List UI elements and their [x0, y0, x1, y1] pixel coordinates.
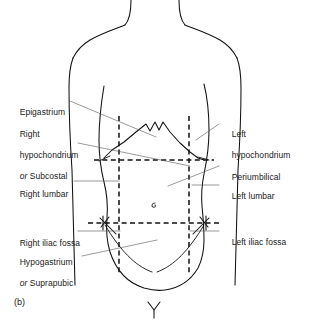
- arm-outline: [69, 58, 241, 285]
- label-left-hypochondrium-line2: hypochondrium: [232, 150, 291, 160]
- label-left-iliac-fossa: Left iliac fossa: [222, 226, 286, 258]
- shoulder-outline: [73, 25, 237, 58]
- label-left-iliac-fossa-line1: Left iliac fossa: [232, 237, 287, 247]
- umbilicus-mark: [152, 203, 155, 207]
- label-right-hypochondrium-line2: hypochondrium: [20, 150, 79, 160]
- abdominal-regions-figure: Epigastrium Right hypochondrium or Subco…: [0, 0, 309, 327]
- leader-lines-right: [168, 124, 219, 231]
- label-hypogastrium-alt-text: Suprapubic: [30, 278, 74, 288]
- label-right-lumbar-line1: Right lumbar: [20, 189, 69, 199]
- label-right-lumbar: Right lumbar: [10, 178, 68, 210]
- label-hypogastrium-line1: Hypogastrium: [20, 257, 73, 267]
- label-epigastrium-line1: Epigastrium: [20, 107, 65, 117]
- label-left-lumbar-line1: Left lumbar: [232, 191, 275, 201]
- neck-outline: [125, 0, 185, 25]
- costal-margin: [99, 122, 209, 161]
- figure-caption: (b): [14, 297, 25, 307]
- label-right-hypochondrium-line1: Right: [20, 129, 40, 139]
- label-left-lumbar: Left lumbar: [222, 180, 275, 212]
- leader-lines-left: [70, 101, 190, 256]
- torso-outline: [99, 84, 209, 290]
- label-left-hypochondrium-line1: Left: [232, 129, 246, 139]
- inguinal-lines: [105, 225, 204, 272]
- vertical-grid-lines: [119, 116, 189, 274]
- pubic-symphysis-mark: [148, 302, 160, 318]
- label-hypogastrium: Hypogastrium or Suprapubic: [10, 246, 73, 299]
